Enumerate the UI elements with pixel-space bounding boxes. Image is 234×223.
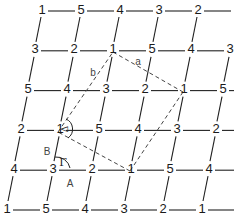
lattice-node-label: 5	[42, 201, 49, 216]
grid-slanted-line	[100, 97, 105, 122]
lattice-node-label: 4	[63, 81, 70, 96]
grid-slanted-line	[93, 136, 98, 161]
grid-lines	[8, 11, 234, 210]
lattice-node-label: 2	[194, 2, 201, 17]
grid-slanted-line	[75, 17, 80, 42]
lattice-node-label: 2	[159, 201, 166, 216]
lattice-node-label: 3	[102, 81, 109, 96]
grid-slanted-line	[139, 97, 144, 122]
lattice-node-label: 2	[17, 121, 24, 136]
lattice-node-label: 4	[205, 161, 212, 176]
grid-slanted-line	[192, 17, 197, 42]
lattice-node-label: 3	[226, 41, 233, 56]
grid-slanted-line	[36, 17, 41, 42]
lattice-node-label: 5	[24, 81, 31, 96]
lattice-node-label: 5	[95, 121, 102, 136]
lattice-node-label: 5	[148, 41, 155, 56]
grid-slanted-line	[125, 176, 130, 201]
grid-slanted-line	[29, 57, 34, 82]
grid-slanted-line	[47, 176, 52, 201]
lattice-node-label: 5	[219, 81, 226, 96]
lattice-node-label: 3	[31, 41, 38, 56]
lattice-node-label: 3	[155, 2, 162, 17]
lattice-node-label: 4	[81, 201, 88, 216]
grid-slanted-line	[185, 57, 190, 82]
grid-slanted-line	[217, 97, 222, 122]
region-label-b: B	[44, 146, 51, 157]
grid-slanted-line	[224, 57, 229, 82]
grid-slanted-line	[22, 97, 27, 122]
grid-slanted-line	[8, 176, 13, 201]
grid-slanted-line	[61, 97, 66, 122]
grid-slanted-line	[164, 176, 169, 201]
region-label-a: A	[67, 178, 74, 189]
lattice-node-label: 4	[134, 121, 141, 136]
lattice-node-label: 4	[10, 161, 17, 176]
grid-slanted-line	[171, 136, 176, 161]
lattice-node-label: 1	[180, 81, 187, 96]
lattice-node-label: 5	[166, 161, 173, 176]
lattice-diagram: 15432321543543215215432432154154321 a b …	[0, 0, 234, 223]
grid-slanted-line	[107, 57, 112, 82]
lattice-node-label: 2	[212, 121, 219, 136]
grid-slanted-line	[132, 136, 137, 161]
lattice-node-label: 2	[141, 81, 148, 96]
dashed-parallelogram	[58, 52, 183, 171]
lattice-node-label: 4	[116, 2, 123, 17]
lattice-node-label: 3	[173, 121, 180, 136]
lattice-node-label: 1	[38, 2, 45, 17]
grid-slanted-line	[203, 176, 208, 201]
edge-label-b: b	[90, 67, 96, 78]
lattice-node-label: 1	[3, 201, 10, 216]
lattice-node-label: 3	[120, 201, 127, 216]
lattice-node-label: 1	[198, 201, 205, 216]
grid-slanted-line	[178, 97, 183, 122]
grid-slanted-line	[86, 176, 91, 201]
grid-slanted-line	[146, 57, 151, 82]
grid-slanted-line	[114, 17, 119, 42]
grid-slanted-line	[15, 136, 20, 161]
angle-label-gamma: Γ	[59, 156, 67, 169]
angle-label-delta: Δ	[60, 125, 70, 132]
grid-slanted-line	[68, 57, 73, 82]
lattice-node-label: 1	[109, 41, 116, 56]
lattice-node-label: 2	[70, 41, 77, 56]
lattice-node-label: 1	[127, 161, 134, 176]
lattice-node-label: 4	[187, 41, 194, 56]
lattice-node-label: 2	[88, 161, 95, 176]
edge-label-a: a	[135, 56, 141, 67]
lattice-node-label: 5	[77, 2, 84, 17]
grid-slanted-line	[210, 136, 215, 161]
lattice-node-label: 3	[49, 161, 56, 176]
grid-slanted-line	[153, 17, 158, 42]
